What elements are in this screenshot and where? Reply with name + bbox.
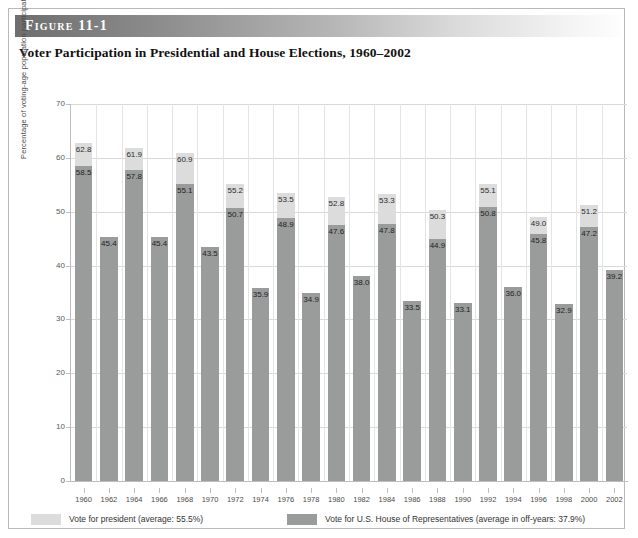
bar-group: 32.9 [555,104,573,481]
bar-value-president: 49.0 [531,219,547,228]
x-axis-tick-mark [84,488,85,493]
x-axis-tick-mark [539,488,540,493]
bar-value-house: 48.9 [278,220,294,229]
x-axis-tick-label: 2000 [581,495,598,504]
x-axis-tick-label: 1968 [176,495,193,504]
bar-value-house: 58.5 [76,168,92,177]
x-axis-tick-label: 1960 [75,495,92,504]
bar-value-house: 34.9 [303,295,319,304]
bar-group: 38.0 [353,104,371,481]
bar-group: 51.247.2 [580,104,598,481]
bar-segment-house [226,208,244,481]
x-axis-tick-mark [362,488,363,493]
x-axis-tick-label: 1982 [353,495,370,504]
column-separator [450,104,451,481]
bar-group: 36.0 [504,104,522,481]
bar-value-house: 38.0 [354,278,370,287]
column-separator [147,104,148,481]
x-axis-tick-label: 1996 [530,495,547,504]
column-separator [273,104,274,481]
x-axis-tick-mark [261,488,262,493]
x-axis-tick-mark [134,488,135,493]
bar-group: 33.1 [454,104,472,481]
legend-item-house: Vote for U.S. House of Representatives (… [287,512,585,526]
figure-title: Voter Participation in Presidential and … [19,45,599,61]
bar-segment-house [277,218,295,481]
legend-label-house: Vote for U.S. House of Representatives (… [325,514,585,524]
x-axis-tick-label: 1992 [480,495,497,504]
column-separator [197,104,198,481]
bar-segment-house [201,247,219,481]
x-axis-tick-mark [336,488,337,493]
bar-value-house: 33.1 [455,305,471,314]
bar-segment-house [429,239,447,481]
bar-segment-house [75,166,93,481]
y-axis-tick-label: 70 [43,99,65,108]
bar-segment-house [479,207,497,481]
bar-value-president: 60.9 [177,155,193,164]
column-separator [324,104,325,481]
x-axis-tick-mark [463,488,464,493]
bar-value-house: 33.5 [404,303,420,312]
bar-value-house: 32.9 [556,306,572,315]
x-axis-tick-mark [210,488,211,493]
x-axis-tick-mark [513,488,514,493]
bar-value-house: 57.8 [126,172,142,181]
x-axis-tick-label: 1966 [151,495,168,504]
x-axis-tick-label: 1986 [404,495,421,504]
y-axis-tick-mark [66,212,71,213]
x-axis-tick-mark [488,488,489,493]
bar-value-president: 55.1 [480,186,496,195]
x-axis-tick-label: 1990 [454,495,471,504]
y-axis-tick-mark [66,373,71,374]
column-separator [122,104,123,481]
column-separator [349,104,350,481]
bar-segment-house [151,237,169,482]
bar-segment-house [252,288,270,481]
bar-value-house: 36.0 [505,289,521,298]
y-axis-tick-label: 20 [43,368,65,377]
bar-group: 55.150.8 [479,104,497,481]
x-axis-tick-label: 1988 [429,495,446,504]
y-axis-tick-mark [66,104,71,105]
bar-segment-house [302,293,320,481]
figure-banner: Figure 11-1 [15,15,620,37]
x-axis-tick-label: 1970 [202,495,219,504]
x-axis-tick-mark [564,488,565,493]
bar-value-house: 45.4 [101,239,117,248]
x-axis-tick-label: 1972 [227,495,244,504]
bar-group: 43.5 [201,104,219,481]
bar-segment-house [530,234,548,481]
bar-value-president: 53.3 [379,196,395,205]
bar-value-house: 35.9 [253,290,269,299]
x-axis-line [70,481,628,482]
bar-value-house: 45.4 [152,239,168,248]
x-axis-tick-mark [311,488,312,493]
x-axis-tick-label: 1994 [505,495,522,504]
bar-group: 53.347.8 [378,104,396,481]
bar-segment-house [100,237,118,482]
bar-segment-house [580,227,598,481]
bar-value-house: 55.1 [177,186,193,195]
y-axis-tick-label: 10 [43,422,65,431]
y-axis-tick-mark [66,319,71,320]
column-separator [172,104,173,481]
y-axis-tick-label: 50 [43,207,65,216]
bar-group: 60.955.1 [176,104,194,481]
column-separator [298,104,299,481]
x-axis-tick-mark [185,488,186,493]
x-axis-tick-label: 1964 [126,495,143,504]
x-axis-tick-label: 1978 [303,495,320,504]
x-axis-tick-mark [159,488,160,493]
y-axis-tick-mark [66,481,71,482]
bar-group: 39.2 [606,104,624,481]
bar-value-house: 43.5 [202,249,218,258]
x-axis-tick-mark [589,488,590,493]
x-axis-tick-label: 1974 [252,495,269,504]
column-separator [425,104,426,481]
bar-value-president: 52.8 [329,199,345,208]
bar-segment-house [353,276,371,481]
bar-value-president: 50.3 [430,212,446,221]
column-separator [96,104,97,481]
legend-label-president: Vote for president (average: 55.5%) [69,514,203,524]
